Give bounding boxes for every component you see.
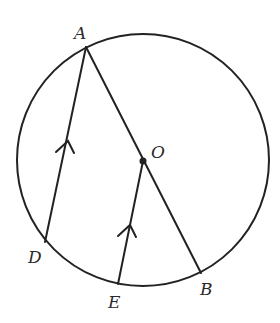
label-e: E xyxy=(107,292,121,312)
segment-oe xyxy=(118,161,143,284)
center-point-o xyxy=(140,158,147,165)
label-a: A xyxy=(72,23,86,43)
label-d: D xyxy=(27,247,42,267)
circle-diagram: A O D E B xyxy=(0,0,280,323)
label-o: O xyxy=(151,142,165,162)
label-b: B xyxy=(199,279,213,299)
